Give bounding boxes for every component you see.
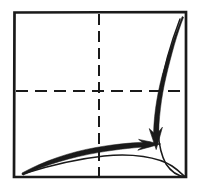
origami-figure: Origami fold step diagram Square paper s… xyxy=(0,0,198,193)
origami-diagram: Origami fold step diagram Square paper s… xyxy=(0,0,198,193)
